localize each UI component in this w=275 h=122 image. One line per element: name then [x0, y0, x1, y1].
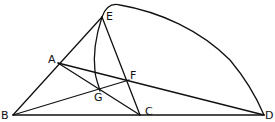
label-g: G	[94, 91, 103, 104]
label-f: F	[130, 69, 136, 82]
label-d: D	[265, 109, 273, 122]
curve-ed	[102, 4, 264, 115]
segment-ad	[58, 63, 264, 115]
segment-ec	[102, 17, 140, 115]
label-c: C	[145, 105, 153, 118]
geometry-diagram: E A F G B C D	[0, 0, 275, 122]
segment-be	[13, 17, 102, 115]
label-a: A	[48, 53, 56, 66]
label-b: B	[1, 109, 9, 122]
curve-eg	[94, 17, 102, 91]
label-e: E	[106, 10, 113, 23]
